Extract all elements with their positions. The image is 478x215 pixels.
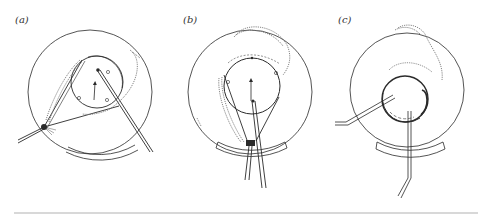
arrow-icon-a	[94, 83, 95, 100]
outer-circle-a	[28, 30, 152, 154]
diagram-canvas	[0, 0, 478, 215]
outer-circle-b	[188, 30, 312, 154]
surgical-diagram-figure: (a) (b) (c)	[0, 0, 478, 215]
inner-circle-b	[224, 58, 280, 114]
suture-knot-b	[246, 140, 255, 146]
panel-a	[18, 30, 153, 160]
outer-circle-c	[350, 33, 464, 147]
bottom-divider	[14, 212, 478, 214]
panel-b	[188, 27, 312, 188]
inner-circle-a	[71, 56, 123, 108]
panel-c	[335, 25, 464, 198]
